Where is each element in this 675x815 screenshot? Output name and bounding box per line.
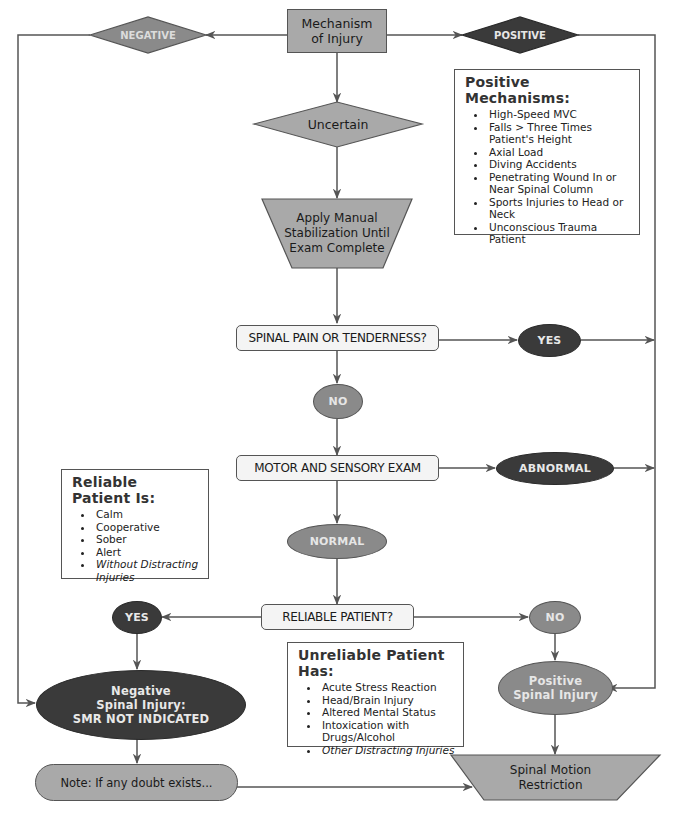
- list-item: Intoxication with Drugs/Alcohol: [320, 719, 455, 744]
- no-reliable-oval: NO: [529, 601, 581, 634]
- yes-pain-label: YES: [537, 334, 561, 347]
- mechanism-of-injury-box: Mechanism of Injury: [287, 9, 387, 53]
- positive-injury-line1: Positive: [529, 674, 582, 688]
- manual-stabilization-step: Apply Manual Stabilization Until Exam Co…: [282, 199, 392, 268]
- spinal-pain-question-label: SPINAL PAIN OR TENDERNESS?: [248, 331, 426, 345]
- list-item: Axial Load: [487, 146, 631, 159]
- unreliable-patient-box: Unreliable Patient Has: Acute Stress Rea…: [287, 642, 464, 747]
- positive-mechanisms-box: Positive Mechanisms: High-Speed MVC Fall…: [454, 69, 640, 235]
- list-item: Alert: [94, 546, 200, 559]
- list-item: Cooperative: [94, 521, 200, 534]
- list-item: Altered Mental Status: [320, 706, 455, 719]
- reliable-patient-box: Reliable Patient Is: Calm Cooperative So…: [61, 469, 209, 579]
- no-pain-oval: NO: [313, 384, 363, 419]
- reliable-patient-title: Reliable Patient Is:: [72, 474, 200, 506]
- list-item: Penetrating Wound In or Near Spinal Colu…: [487, 171, 631, 196]
- uncertain-decision: Uncertain: [254, 102, 422, 147]
- smr-line1: Spinal Motion: [510, 763, 591, 778]
- unreliable-patient-list: Acute Stress Reaction Head/Brain Injury …: [298, 681, 455, 756]
- spinal-motion-restriction-step: Spinal Motion Restriction: [484, 755, 617, 800]
- positive-spinal-injury-oval: Positive Spinal Injury: [498, 661, 613, 715]
- motor-sensory-exam-label: MOTOR AND SENSORY EXAM: [254, 461, 421, 475]
- no-pain-label: NO: [329, 395, 348, 408]
- yes-pain-oval: YES: [518, 324, 581, 357]
- negative-injury-line3: SMR NOT INDICATED: [73, 712, 210, 726]
- mechanism-of-injury-label: Mechanism of Injury: [294, 16, 380, 46]
- motor-sensory-exam-box: MOTOR AND SENSORY EXAM: [236, 455, 439, 481]
- negative-injury-line1: Negative: [111, 684, 171, 698]
- abnormal-oval: ABNORMAL: [496, 452, 614, 485]
- positive-decision: POSITIVE: [462, 17, 578, 53]
- spinal-injury-flowchart: Mechanism of Injury NEGATIVE POSITIVE Po…: [0, 0, 675, 815]
- smr-line2: Restriction: [519, 778, 583, 793]
- reliable-patient-list: Calm Cooperative Sober Alert Without Dis…: [72, 508, 200, 583]
- list-item: Acute Stress Reaction: [320, 681, 455, 694]
- unreliable-patient-title: Unreliable Patient Has:: [298, 647, 455, 679]
- yes-reliable-label: YES: [125, 611, 149, 624]
- positive-mechanisms-list: High-Speed MVC Falls > Three Times Patie…: [465, 108, 631, 246]
- reliable-patient-question-box: RELIABLE PATIENT?: [261, 604, 414, 630]
- manual-stabilization-label: Apply Manual Stabilization Until Exam Co…: [282, 211, 392, 256]
- list-item: Diving Accidents: [487, 158, 631, 171]
- list-item: Unconscious Trauma Patient: [487, 221, 631, 246]
- note-doubt-pill: Note: If any doubt exists...: [35, 764, 238, 801]
- positive-label: POSITIVE: [494, 30, 546, 41]
- normal-oval: NORMAL: [287, 524, 387, 559]
- positive-injury-line2: Spinal Injury: [513, 688, 598, 702]
- reliable-patient-question-label: RELIABLE PATIENT?: [282, 610, 392, 624]
- abnormal-label: ABNORMAL: [519, 462, 591, 475]
- negative-injury-line2: Spinal Injury:: [96, 698, 186, 712]
- list-item: Head/Brain Injury: [320, 694, 455, 707]
- list-item: Without Distracting Injuries: [94, 558, 200, 583]
- list-item: Sober: [94, 533, 200, 546]
- normal-label: NORMAL: [310, 535, 365, 548]
- list-item: High-Speed MVC: [487, 108, 631, 121]
- list-item: Calm: [94, 508, 200, 521]
- positive-mechanisms-title: Positive Mechanisms:: [465, 74, 631, 106]
- list-item: Other Distracting Injuries: [320, 744, 455, 757]
- negative-label: NEGATIVE: [120, 30, 175, 41]
- list-item: Sports Injuries to Head or Neck: [487, 196, 631, 221]
- no-reliable-label: NO: [546, 611, 565, 624]
- list-item: Falls > Three Times Patient's Height: [487, 121, 631, 146]
- negative-decision: NEGATIVE: [90, 17, 206, 53]
- yes-reliable-oval: YES: [112, 601, 162, 634]
- negative-spinal-injury-oval: Negative Spinal Injury: SMR NOT INDICATE…: [36, 670, 246, 740]
- note-doubt-label: Note: If any doubt exists...: [60, 776, 212, 790]
- spinal-pain-question-box: SPINAL PAIN OR TENDERNESS?: [236, 325, 439, 351]
- uncertain-label: Uncertain: [308, 117, 369, 132]
